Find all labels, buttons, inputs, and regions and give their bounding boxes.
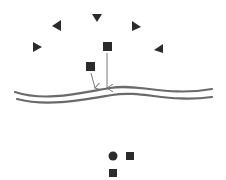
bottom-shape-group bbox=[109, 152, 135, 178]
triangle-icon bbox=[92, 14, 102, 22]
square-icon bbox=[86, 62, 95, 71]
triangle-icon bbox=[132, 21, 141, 31]
circle-icon bbox=[109, 152, 118, 161]
triangle-icon bbox=[154, 44, 163, 53]
diagram-canvas bbox=[0, 0, 226, 180]
square-icon bbox=[109, 169, 117, 177]
triangle-icon bbox=[52, 20, 61, 31]
square-icon bbox=[126, 152, 134, 160]
triangle-icon bbox=[33, 42, 42, 52]
square-icon bbox=[103, 42, 112, 51]
falling-squares-group bbox=[86, 42, 112, 88]
arrow-down-icon bbox=[91, 73, 95, 88]
triangle-group bbox=[33, 14, 163, 53]
wave-line-lower bbox=[17, 94, 212, 103]
wavy-surface bbox=[15, 87, 212, 103]
diagram-svg bbox=[0, 0, 226, 180]
